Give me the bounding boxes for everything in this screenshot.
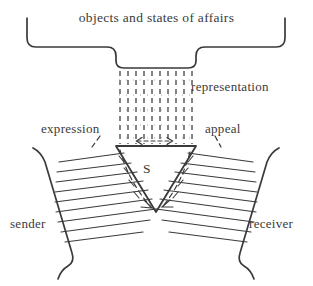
label-representation: representation <box>191 79 269 95</box>
representation-hatch <box>120 71 192 144</box>
diagram-canvas <box>0 0 313 286</box>
label-expression: expression <box>41 121 100 137</box>
appeal-leader <box>215 136 221 147</box>
organon-model-diagram: objects and states of affairs representa… <box>0 0 313 286</box>
label-sender: sender <box>10 216 46 232</box>
label-sign-symbol: S <box>143 161 151 177</box>
receiver-bracket <box>239 148 279 279</box>
label-receiver: receiver <box>249 216 293 232</box>
sender-bracket <box>33 148 73 279</box>
label-objects-and-states-of-affairs: objects and states of affairs <box>0 10 313 26</box>
label-appeal: appeal <box>205 121 241 137</box>
expression-leader <box>92 136 100 147</box>
representation-arrow <box>137 138 173 145</box>
representation-dot-rows <box>119 80 193 138</box>
